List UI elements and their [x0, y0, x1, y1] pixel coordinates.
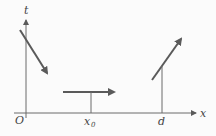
x0-label: x: [84, 115, 91, 128]
ascending-arrow-icon: [152, 39, 181, 80]
d-label: d: [158, 115, 165, 128]
x-axis-label: x: [200, 107, 207, 120]
descending-arrow-icon: [20, 30, 47, 73]
origin-label: O: [15, 114, 24, 127]
t-axis-label: t: [24, 4, 29, 17]
x0-subscript: 0: [91, 121, 96, 129]
motion-diagram: t x O x 0 d: [0, 0, 216, 136]
